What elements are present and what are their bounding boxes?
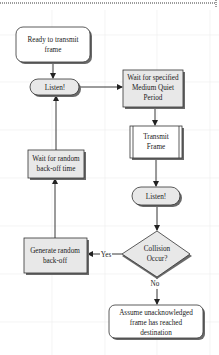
node-label-line: Wait for random <box>32 155 80 163</box>
edge-label-yes: Yes <box>101 251 112 259</box>
node-label-line: Frame <box>147 143 165 151</box>
node-ready-to-transmit: Ready to transmit frame <box>16 27 92 64</box>
node-collision-decision: Collision Occur? <box>122 231 192 279</box>
node-label-line: destination <box>140 329 172 337</box>
node-label-line: Listen! <box>45 84 65 92</box>
page-border-dotted <box>0 0 216 8</box>
node-wait-medium-quiet: Wait for specified Medium Quiet Period <box>123 70 185 109</box>
node-label-line: frame <box>45 46 62 54</box>
node-wait-random-backoff: Wait for random back-off time <box>28 150 86 180</box>
node-label-line: back-off <box>43 257 68 265</box>
node-transmit-frame: Transmit Frame <box>130 126 184 160</box>
node-label-line: Generate random <box>30 247 80 255</box>
edge-label-no: No <box>151 280 160 288</box>
node-label-line: frame has reached <box>130 319 183 327</box>
node-label-line: Occur? <box>147 255 168 263</box>
node-label-line: Period <box>144 94 163 102</box>
node-label-line: back-off time <box>37 165 76 173</box>
node-label-line: Medium Quiet <box>132 84 174 92</box>
node-listen-1: Listen! <box>30 79 81 97</box>
node-label-line: Wait for specified <box>127 74 179 82</box>
node-listen-2: Listen! <box>132 187 182 207</box>
node-label-line: Transmit <box>143 133 169 141</box>
node-label-line: Assume unacknowledged <box>119 309 193 317</box>
node-assume-delivered: Assume unacknowledged frame has reached … <box>109 305 205 340</box>
node-label-line: Collision <box>144 245 171 253</box>
flowchart-canvas: Ready to transmit frame Listen! Wait for… <box>0 0 219 355</box>
node-generate-backoff: Generate random back-off <box>24 238 89 275</box>
node-label-line: Listen! <box>146 193 166 201</box>
node-label-line: Ready to transmit <box>27 36 78 44</box>
